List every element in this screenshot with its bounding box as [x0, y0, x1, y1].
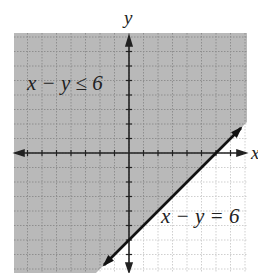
equation-label: x − y = 6 [161, 206, 239, 227]
x-axis-label: x [251, 143, 258, 162]
y-axis-arrow-down-icon [126, 263, 132, 272]
y-axis-label: y [124, 8, 132, 27]
inequality-graph [0, 0, 258, 273]
inequality-label: x − y ≤ 6 [27, 73, 103, 94]
